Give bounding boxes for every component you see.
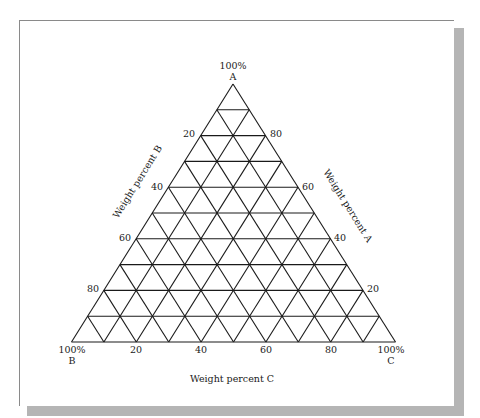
grid-line (169, 161, 282, 342)
vertex-c-label: C (387, 355, 394, 366)
right-axis-title: Weight percent A (321, 167, 375, 244)
vertex-a-percent: 100% (219, 60, 246, 71)
bottom-tick-80: 80 (325, 344, 337, 355)
left-tick-80: 80 (87, 283, 99, 294)
vertex-b-percent: 100% (58, 344, 85, 355)
left-tick-60: 60 (119, 232, 131, 243)
grid-line (104, 110, 249, 342)
grid-line (88, 316, 104, 342)
grid-line (217, 110, 363, 342)
grid-line (152, 213, 233, 342)
vertex-c-percent: 100% (377, 344, 404, 355)
left-tick-40: 40 (151, 181, 163, 192)
grid-line (120, 265, 169, 342)
bottom-tick-20: 20 (130, 344, 142, 355)
grid-line (234, 213, 315, 342)
vertex-b-label: B (69, 355, 76, 366)
bottom-tick-60: 60 (260, 344, 272, 355)
right-tick-60: 60 (302, 181, 314, 192)
vertex-a-label: A (229, 71, 237, 82)
grid-line (363, 316, 379, 342)
right-tick-40: 40 (334, 232, 346, 243)
bottom-tick-40: 40 (195, 344, 207, 355)
grid-line (185, 161, 299, 342)
grid-line (298, 265, 346, 342)
right-tick-20: 20 (367, 283, 379, 294)
bottom-axis-title: Weight percent C (190, 373, 274, 384)
right-tick-80: 80 (270, 128, 282, 139)
left-tick-20: 20 (183, 128, 195, 139)
ternary-diagram: 100% A 100% B 100% C 20 40 60 80 80 60 4… (0, 0, 480, 418)
